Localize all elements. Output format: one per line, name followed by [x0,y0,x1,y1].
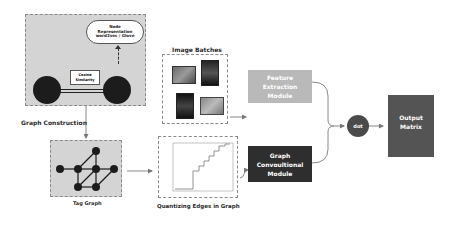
batch-image-3 [176,93,194,119]
node-representation-cloud: Node Representation word2vec / Glove [86,20,144,44]
graph-construction-caption: Graph Construction [21,119,87,126]
image-batches-panel [162,54,228,124]
quantizing-caption: Quantizing Edges in Graph [157,203,240,209]
tag-graph-panel [50,140,122,197]
feature-extraction-module: Feature Extraction Module [248,70,312,103]
step-chart [159,137,239,199]
tag-graph-caption: Tag Graph [73,200,102,206]
output-matrix: Output Matrix [388,95,434,157]
tag-graph-icon [51,141,123,198]
cosine-similarity-label: Cosine Similarity [70,70,100,85]
batch-image-1 [172,66,196,84]
graph-construction-panel: Node Representation word2vec / Glove Cos… [25,14,146,106]
graph-node-left [33,76,61,104]
image-batches-caption: Image Batches [172,46,222,53]
similarity-edge [56,89,106,93]
cloud-text: Node Representation word2vec / Glove [93,25,137,39]
batch-image-4 [200,97,224,115]
arrow-head-icon [115,45,121,49]
quantizing-panel [158,136,238,198]
graph-node-right [103,76,131,104]
graph-convolutional-module: Graph Convoultional Module [248,146,312,182]
batch-image-2 [201,60,219,86]
dot-product-node: dot [347,115,369,137]
dashed-up-arrow-icon [118,48,119,64]
